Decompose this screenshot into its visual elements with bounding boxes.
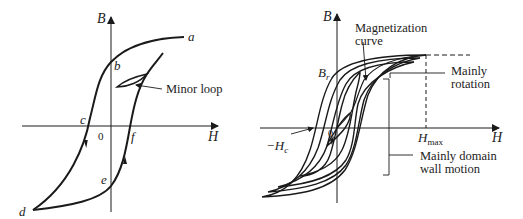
hmax-label: Hmax	[417, 130, 443, 147]
rotation-label-1: Mainly	[451, 64, 488, 78]
down-arrow-icon	[84, 140, 88, 148]
right-h-label: H	[491, 130, 503, 145]
rotation-label-2: rotation	[451, 77, 491, 91]
minor-loop-label: Minor loop	[166, 82, 223, 96]
point-b-label: b	[114, 58, 121, 73]
domain-bracket	[383, 79, 389, 175]
coercivity-leader	[291, 128, 313, 134]
point-f-label: f	[131, 129, 137, 144]
point-d-label: d	[19, 204, 26, 219]
nested-loops	[262, 55, 426, 197]
magnetization-curve-label-2: curve	[355, 34, 383, 48]
left-h-label: H	[207, 129, 219, 144]
domain-label-1: Mainly domain	[420, 149, 497, 163]
coercivity-label: −Hc	[266, 138, 288, 155]
right-origin-label: 0	[328, 128, 333, 139]
right-hysteresis-diagram: B H 0 Br −Hc Hmax Magnetization curve Ma…	[260, 9, 503, 203]
left-b-label: B	[97, 11, 106, 26]
loop-4	[300, 72, 360, 176]
left-descending-branch	[33, 37, 184, 210]
point-c-label: c	[80, 112, 86, 127]
point-a-label: a	[188, 29, 195, 44]
outer-loop	[262, 55, 426, 197]
domain-label-2: wall motion	[420, 162, 481, 176]
point-e-label: e	[101, 172, 107, 187]
left-origin-label: 0	[98, 130, 104, 142]
magnetization-curve-label-1: Magnetization	[355, 21, 428, 35]
right-b-label: B	[323, 9, 332, 24]
left-hysteresis-diagram: B H 0 a b c d e f Minor loop	[19, 11, 223, 219]
remanence-label: Br	[318, 65, 330, 82]
hysteresis-figure: B H 0 a b c d e f Minor loop	[0, 0, 523, 219]
